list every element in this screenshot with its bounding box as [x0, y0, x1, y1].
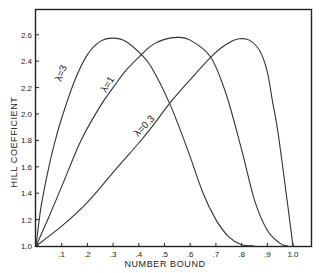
x-tick-label: .2: [84, 250, 91, 259]
y-tick-label: 2.4: [21, 57, 33, 66]
x-tick-label: .6: [187, 250, 194, 259]
x-tick-label: .4: [135, 250, 142, 259]
x-tick-label: .8: [238, 250, 245, 259]
x-tick-label: .1: [58, 250, 65, 259]
x-axis-label: NUMBER BOUND: [124, 259, 205, 269]
x-tick-label: .3: [110, 250, 117, 259]
curve-lambda-1: [36, 37, 288, 246]
y-tick-label: 2.2: [21, 84, 33, 93]
curves: [36, 37, 293, 246]
y-tick-label: 1.4: [21, 189, 33, 198]
x-tick-label: .9: [264, 250, 271, 259]
y-tick-label: 1.6: [21, 163, 33, 172]
x-tick-label: .7: [213, 250, 220, 259]
y-tick-label: 1.2: [21, 216, 33, 225]
y-tick-label: 2.6: [21, 31, 33, 40]
x-tick-label: .5: [161, 250, 168, 259]
plot-frame: [36, 10, 312, 247]
y-tick-label: 1.0: [21, 242, 33, 251]
curve-lambda-0-3: [36, 39, 293, 246]
x-tick-label: 1.0: [287, 250, 299, 259]
plot-border: [36, 10, 312, 247]
x-axis-ticks: .1.2.3.4.5.6.7.8.91.0: [58, 243, 299, 259]
curve-lambda-3: [36, 38, 254, 246]
y-axis-label: HILL COEFFICIENT: [9, 97, 19, 188]
hill-coefficient-chart: 1.01.21.41.61.82.02.22.42.6 .1.2.3.4.5.6…: [0, 0, 320, 273]
y-axis-ticks: 1.01.21.41.61.82.02.22.42.6: [21, 31, 39, 251]
y-tick-label: 1.8: [21, 136, 33, 145]
y-tick-label: 2.0: [21, 110, 33, 119]
curve-label-lambda-1: λ=1: [98, 74, 116, 94]
curve-label-lambda-3: λ=3: [53, 63, 70, 83]
